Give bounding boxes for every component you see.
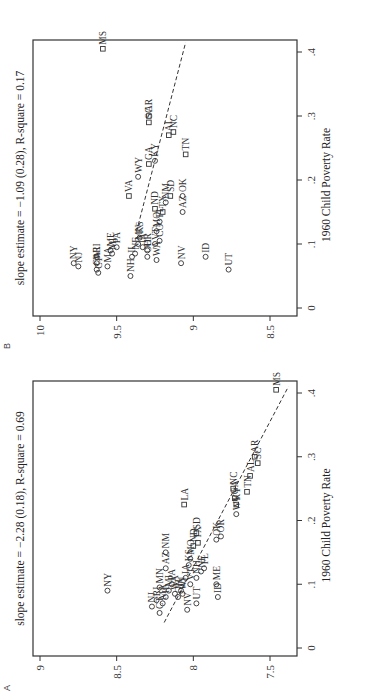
- x-tick-label: .4: [305, 388, 317, 397]
- y-tick-label: 9: [187, 325, 199, 331]
- data-point-circle: [203, 254, 208, 259]
- point-label: ME: [212, 566, 222, 580]
- y-tick-label: 8: [187, 665, 199, 671]
- panel-label: B: [2, 343, 12, 349]
- point-label: SD: [192, 517, 202, 529]
- point-label: MS: [272, 372, 282, 386]
- point-label: KS: [135, 221, 145, 233]
- data-point-circle: [154, 258, 159, 263]
- panel-label: A: [2, 685, 12, 691]
- data-point-circle: [105, 264, 110, 269]
- data-point-circle: [194, 601, 199, 606]
- point-label: NJ: [74, 252, 84, 263]
- point-label: UT: [224, 253, 234, 266]
- data-point-square: [183, 152, 188, 157]
- point-label: TN: [181, 138, 191, 151]
- point-label: NH: [126, 258, 136, 272]
- data-point-circle: [226, 267, 231, 272]
- point-label: OR: [216, 519, 226, 533]
- data-point-square: [245, 490, 250, 495]
- x-tick-label: .3: [305, 111, 317, 120]
- y-tick-label: 8.5: [264, 325, 276, 339]
- data-point-circle: [214, 537, 219, 542]
- point-label: NY: [103, 573, 113, 587]
- x-tick-label: 0: [305, 305, 317, 311]
- data-point-circle: [128, 274, 133, 279]
- point-label: KY: [151, 143, 161, 157]
- rotated-figure: 98.587.50.1.2.3.41960 Child Poverty Rate…: [0, 0, 367, 697]
- chart-title: slope estimate = −2.28 (0.18), R-square …: [14, 411, 27, 626]
- x-tick-label: .1: [305, 580, 317, 588]
- point-label: UT: [192, 587, 202, 600]
- chart-title: slope estimate = −1.09 (0.28), R-square …: [14, 70, 27, 285]
- y-tick-label: 9.5: [111, 325, 123, 339]
- data-point-circle: [180, 210, 185, 215]
- point-label: ID: [213, 583, 223, 593]
- y-tick-label: 8.5: [111, 665, 123, 679]
- point-label: OK: [178, 178, 188, 192]
- point-label: AR: [250, 439, 260, 453]
- point-label: KS: [184, 549, 194, 561]
- y-tick-label: 9: [34, 665, 46, 671]
- data-point-circle: [179, 261, 184, 266]
- x-tick-label: .1: [305, 240, 317, 248]
- x-tick-label: .4: [305, 47, 317, 56]
- plot-frame: [33, 381, 297, 656]
- data-point-circle: [234, 512, 239, 517]
- data-point-circle: [76, 264, 81, 269]
- point-label: ID: [201, 243, 211, 253]
- data-point-circle: [136, 174, 141, 179]
- data-point-square: [101, 47, 106, 52]
- data-point-square: [147, 162, 152, 167]
- x-tick-label: .2: [305, 516, 317, 524]
- data-point-square: [255, 461, 260, 466]
- point-label: LA: [180, 488, 190, 501]
- point-label: AZ: [161, 551, 171, 564]
- point-label: AL: [246, 459, 256, 472]
- data-point-circle: [188, 582, 193, 587]
- x-axis-label: 1960 Child Poverty Rate: [320, 468, 333, 582]
- point-label: PA: [112, 232, 122, 243]
- point-label: SD: [166, 180, 176, 192]
- point-label: FL: [200, 553, 210, 564]
- panel-b: 109.598.50.1.2.3.41960 Child Poverty Rat…: [2, 31, 333, 349]
- y-tick-label: 7.5: [264, 665, 276, 679]
- data-point-square: [167, 133, 172, 138]
- x-tick-label: .2: [305, 176, 317, 184]
- data-point-square: [274, 388, 279, 393]
- point-label: AR: [144, 98, 154, 112]
- data-point-circle: [185, 607, 190, 612]
- point-label: WI: [92, 247, 102, 259]
- point-label: MS: [98, 31, 108, 45]
- data-point-circle: [157, 610, 162, 615]
- point-label: CO: [155, 223, 165, 236]
- point-label: NM: [161, 533, 171, 549]
- point-label: ND: [151, 191, 161, 205]
- data-point-circle: [105, 588, 110, 593]
- data-point-circle: [215, 595, 220, 600]
- data-point-square: [147, 120, 152, 125]
- point-label: AZ: [178, 195, 188, 208]
- y-tick-label: 10: [34, 325, 46, 337]
- panel-a: 98.587.50.1.2.3.41960 Child Poverty Rate…: [2, 372, 333, 691]
- data-point-circle: [145, 254, 150, 259]
- x-axis-label: 1960 Child Poverty Rate: [320, 128, 333, 242]
- x-tick-label: .3: [305, 452, 317, 461]
- point-label: VA: [124, 179, 134, 192]
- data-point-square: [182, 502, 187, 507]
- data-point-circle: [149, 604, 154, 609]
- data-point-square: [127, 194, 132, 199]
- x-tick-label: 0: [305, 645, 317, 651]
- point-label: WY: [134, 157, 144, 173]
- plot-frame: [33, 40, 297, 316]
- point-label: NC: [229, 471, 239, 484]
- point-label: NC: [169, 115, 179, 128]
- point-label: NV: [177, 245, 187, 259]
